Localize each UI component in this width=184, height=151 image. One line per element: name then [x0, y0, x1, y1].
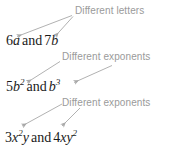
- arrow-to-exponent-1: [22, 104, 62, 126]
- expression-3: 3x2yand4xy2: [5, 130, 77, 146]
- conjunction-3: and: [29, 130, 53, 145]
- annotation-label-3: Different exponents: [62, 97, 150, 109]
- annotation-row-2: Different exponents 5b2andb3: [0, 46, 184, 98]
- annotation-row-1: Different letters 6aand7b: [0, 0, 184, 52]
- term-1-exponent: 2: [20, 77, 25, 87]
- arrow-to-exponent-2: [74, 66, 112, 83]
- term-2-exponent-2: 2: [73, 128, 78, 138]
- diagram-canvas: Different letters 6aand7b Different expo…: [0, 0, 184, 151]
- arrow-to-exponent-2: [62, 108, 80, 126]
- term-1-variable-2: y: [23, 130, 29, 145]
- term-2-exponent: 3: [56, 77, 61, 87]
- term-1-coefficient: 3: [5, 130, 12, 145]
- annotation-row-3: Different exponents 3x2yand4xy2: [0, 92, 184, 151]
- annotation-label-1: Different letters: [75, 5, 144, 17]
- annotation-label-2: Different exponents: [62, 51, 150, 63]
